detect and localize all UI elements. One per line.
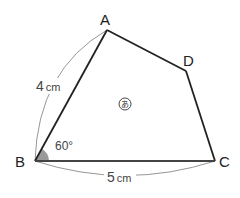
vertex-label-a: A — [100, 11, 110, 28]
angle-label-b: 60° — [55, 139, 73, 153]
measure-unit-ab: cm — [46, 81, 61, 93]
region-label-text: あ — [121, 100, 129, 109]
quadrilateral-diagram: A B C D 4cm 5cm 60° あ — [0, 0, 240, 198]
measure-label-bc: 5cm — [107, 169, 131, 185]
measure-unit-bc: cm — [117, 172, 132, 184]
vertex-label-b: B — [15, 153, 25, 170]
vertex-label-d: D — [183, 52, 194, 69]
measure-label-ab: 4cm — [36, 78, 60, 94]
region-label: あ — [119, 98, 131, 110]
edge-dc — [186, 71, 215, 161]
measure-value-ab: 4 — [36, 78, 44, 94]
measure-value-bc: 5 — [107, 169, 115, 185]
angle-60-marker — [35, 149, 49, 161]
edge-ad — [107, 30, 186, 71]
vertex-label-c: C — [219, 153, 230, 170]
